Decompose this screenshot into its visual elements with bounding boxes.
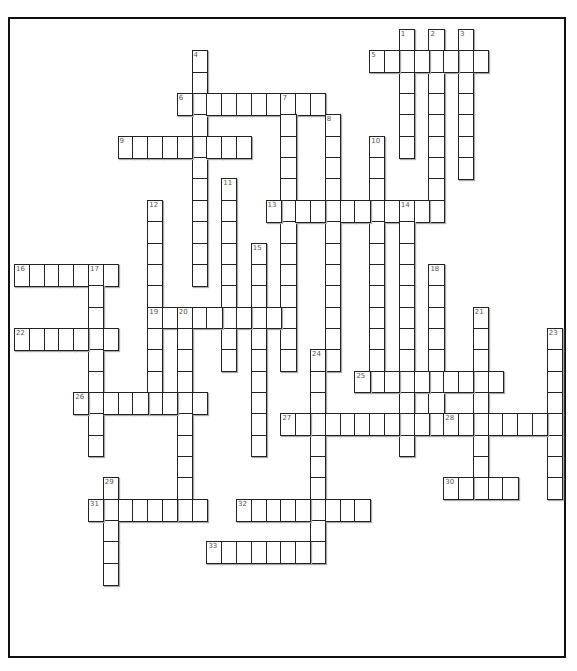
crossword-cell[interactable] (192, 243, 208, 266)
crossword-cell[interactable] (266, 307, 282, 330)
crossword-cell[interactable] (325, 243, 341, 266)
crossword-cell[interactable] (236, 307, 252, 330)
crossword-cell[interactable] (162, 392, 178, 415)
crossword-cell[interactable] (547, 435, 563, 458)
crossword-cell[interactable] (325, 349, 341, 372)
crossword-cell[interactable] (251, 264, 267, 287)
crossword-cell[interactable] (221, 200, 237, 223)
crossword-cell[interactable] (428, 285, 444, 308)
crossword-cell[interactable] (458, 413, 474, 436)
crossword-cell[interactable] (369, 328, 385, 351)
crossword-cell[interactable] (384, 50, 400, 73)
crossword-cell[interactable] (428, 136, 444, 159)
crossword-cell[interactable] (399, 435, 415, 458)
crossword-cell[interactable] (221, 328, 237, 351)
crossword-cell[interactable]: 12 (147, 200, 163, 223)
crossword-cell[interactable] (369, 221, 385, 244)
crossword-cell[interactable]: 3 (458, 29, 474, 52)
crossword-cell[interactable] (414, 371, 430, 394)
crossword-cell[interactable] (428, 200, 444, 223)
crossword-cell[interactable] (547, 371, 563, 394)
crossword-cell[interactable] (473, 328, 489, 351)
crossword-cell[interactable] (428, 328, 444, 351)
crossword-cell[interactable] (310, 435, 326, 458)
crossword-cell[interactable] (458, 157, 474, 180)
crossword-cell[interactable] (414, 413, 430, 436)
crossword-cell[interactable] (354, 499, 370, 522)
crossword-cell[interactable] (399, 243, 415, 266)
crossword-cell[interactable] (399, 72, 415, 95)
crossword-cell[interactable] (251, 285, 267, 308)
crossword-cell[interactable] (547, 349, 563, 372)
crossword-cell[interactable] (88, 435, 104, 458)
crossword-cell[interactable] (473, 349, 489, 372)
crossword-cell[interactable] (473, 50, 489, 73)
crossword-cell[interactable] (88, 371, 104, 394)
crossword-cell[interactable] (428, 178, 444, 201)
crossword-cell[interactable] (280, 221, 296, 244)
crossword-cell[interactable] (236, 136, 252, 159)
crossword-cell[interactable] (414, 50, 430, 73)
crossword-cell[interactable] (428, 392, 444, 415)
crossword-cell[interactable] (473, 392, 489, 415)
crossword-cell[interactable] (428, 307, 444, 330)
crossword-cell[interactable]: 10 (369, 136, 385, 159)
crossword-cell[interactable] (177, 136, 193, 159)
crossword-cell[interactable] (458, 136, 474, 159)
crossword-cell[interactable] (295, 413, 311, 436)
crossword-cell[interactable] (532, 413, 548, 436)
crossword-cell[interactable]: 23 (547, 328, 563, 351)
crossword-cell[interactable] (428, 349, 444, 372)
crossword-cell[interactable] (384, 413, 400, 436)
crossword-cell[interactable]: 31 (88, 499, 104, 522)
crossword-cell[interactable] (428, 114, 444, 137)
crossword-cell[interactable]: 24 (310, 349, 326, 372)
crossword-cell[interactable] (280, 178, 296, 201)
crossword-cell[interactable] (103, 264, 119, 287)
crossword-cell[interactable] (325, 307, 341, 330)
crossword-cell[interactable] (88, 349, 104, 372)
crossword-cell[interactable] (325, 178, 341, 201)
crossword-cell[interactable] (310, 456, 326, 479)
crossword-cell[interactable] (325, 157, 341, 180)
crossword-cell[interactable] (458, 114, 474, 137)
crossword-cell[interactable] (192, 392, 208, 415)
crossword-cell[interactable] (369, 157, 385, 180)
crossword-cell[interactable] (325, 264, 341, 287)
crossword-cell[interactable] (162, 499, 178, 522)
crossword-cell[interactable] (221, 243, 237, 266)
crossword-cell[interactable] (369, 307, 385, 330)
crossword-cell[interactable] (547, 456, 563, 479)
crossword-cell[interactable] (295, 499, 311, 522)
crossword-cell[interactable] (399, 349, 415, 372)
crossword-cell[interactable]: 18 (428, 264, 444, 287)
crossword-cell[interactable] (473, 435, 489, 458)
crossword-cell[interactable] (310, 477, 326, 500)
crossword-cell[interactable] (177, 477, 193, 500)
crossword-cell[interactable] (399, 307, 415, 330)
crossword-cell[interactable] (103, 563, 119, 586)
crossword-cell[interactable] (147, 328, 163, 351)
crossword-cell[interactable] (369, 178, 385, 201)
crossword-cell[interactable] (458, 93, 474, 116)
crossword-cell[interactable] (221, 349, 237, 372)
crossword-cell[interactable] (399, 93, 415, 116)
crossword-cell[interactable] (251, 435, 267, 458)
crossword-cell[interactable] (177, 413, 193, 436)
crossword-cell[interactable]: 4 (192, 50, 208, 73)
crossword-cell[interactable] (443, 50, 459, 73)
crossword-cell[interactable] (103, 520, 119, 543)
crossword-cell[interactable] (399, 136, 415, 159)
crossword-cell[interactable] (310, 200, 326, 223)
crossword-cell[interactable] (547, 477, 563, 500)
crossword-cell[interactable] (147, 371, 163, 394)
crossword-cell[interactable] (251, 328, 267, 351)
crossword-cell[interactable] (251, 349, 267, 372)
crossword-cell[interactable] (192, 72, 208, 95)
crossword-cell[interactable] (399, 264, 415, 287)
crossword-cell[interactable] (192, 157, 208, 180)
crossword-cell[interactable] (399, 114, 415, 137)
crossword-cell[interactable] (177, 435, 193, 458)
crossword-cell[interactable] (177, 371, 193, 394)
crossword-cell[interactable] (325, 136, 341, 159)
